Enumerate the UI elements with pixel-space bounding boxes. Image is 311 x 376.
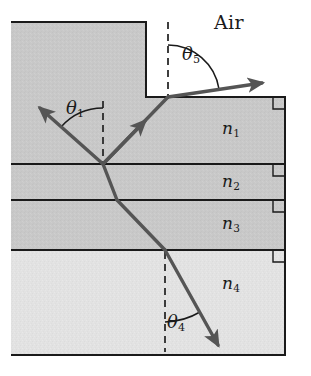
n2-subscript: 2: [233, 180, 240, 192]
refraction-diagram: Air θ1 θ5 θ4 n1 n2 n3 n4: [0, 0, 311, 376]
angle-label-theta4: θ4: [167, 313, 185, 331]
n1-subscript: 1: [233, 127, 240, 139]
medium-label-n2: n2: [222, 173, 240, 190]
air-label: Air: [214, 13, 244, 32]
diagram-canvas: [0, 0, 311, 376]
air-region-fill: [146, 22, 285, 97]
angle-label-theta1: θ1: [66, 99, 84, 117]
theta5-subscript: 5: [193, 53, 200, 66]
medium-label-n3: n3: [222, 215, 240, 232]
layer-n2-fill: [11, 164, 285, 200]
theta1-subscript: 1: [77, 107, 84, 120]
medium-label-n1: n1: [222, 120, 240, 137]
theta4-subscript: 4: [178, 321, 185, 334]
layer-n4-fill: [11, 250, 285, 355]
angle-label-theta5: θ5: [182, 45, 200, 63]
medium-label-n4: n4: [222, 275, 240, 292]
layer-n3-fill: [11, 200, 285, 250]
media-fills: [11, 22, 285, 355]
n4-subscript: 4: [233, 282, 240, 294]
n3-subscript: 3: [233, 222, 240, 234]
